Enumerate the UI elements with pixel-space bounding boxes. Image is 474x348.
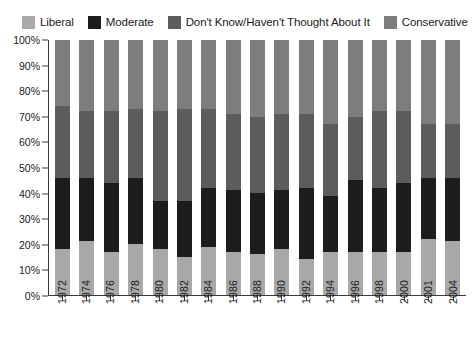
x-tick: 1972	[54, 296, 69, 348]
legend-item[interactable]: Don't Know/Haven't Thought About It	[168, 16, 370, 29]
y-tick-label: 80%	[19, 85, 40, 97]
bar-segment	[201, 188, 216, 247]
x-tick-label: 1978	[129, 280, 141, 304]
x-tick-label: 1976	[104, 280, 116, 304]
bar-segment	[226, 40, 241, 114]
x-tick-label: 1990	[275, 280, 287, 304]
bar-segment	[55, 178, 70, 249]
bar-1982[interactable]	[177, 40, 192, 295]
legend-label: Liberal	[40, 16, 74, 29]
bar-segment	[79, 111, 94, 177]
bar-segment	[421, 40, 436, 124]
bar-segment	[299, 40, 314, 114]
bar-segment	[104, 40, 119, 111]
bar-segment	[323, 40, 338, 124]
bar-segment	[104, 111, 119, 182]
bar-1978[interactable]	[128, 40, 143, 295]
bar-segment	[274, 40, 289, 114]
bar-segment	[396, 111, 411, 182]
bar-segment	[201, 109, 216, 188]
x-tick: 1980	[152, 296, 167, 348]
bar-segment	[55, 40, 70, 106]
bar-2000[interactable]	[396, 40, 411, 295]
y-tick-label: 20%	[19, 239, 40, 251]
bar-1998[interactable]	[372, 40, 387, 295]
legend-swatch-moderate	[88, 16, 101, 29]
legend-label: Conservative	[402, 16, 468, 29]
bar-segment	[177, 40, 192, 109]
x-tick: 2004	[445, 296, 460, 348]
bar-segment	[396, 183, 411, 252]
legend-item[interactable]: Conservative	[384, 16, 468, 29]
bar-1996[interactable]	[348, 40, 363, 295]
chart-root: LiberalModerateDon't Know/Haven't Though…	[0, 0, 474, 348]
y-tick-label: 0%	[25, 290, 40, 302]
x-tick: 1998	[372, 296, 387, 348]
y-axis: 100%90%80%70%60%50%40%30%20%10%0%	[0, 40, 48, 296]
x-axis: 1972197419761978198019821984198619881990…	[48, 296, 466, 348]
bar-segment	[299, 114, 314, 188]
bar-segment	[445, 178, 460, 242]
bar-segment	[372, 188, 387, 252]
x-tick: 1978	[127, 296, 142, 348]
bar-1980[interactable]	[153, 40, 168, 295]
bar-segment	[445, 124, 460, 178]
x-tick-label: 1972	[56, 280, 68, 304]
bar-segment	[177, 201, 192, 257]
bar-segment	[226, 190, 241, 251]
bar-segment	[274, 190, 289, 249]
y-tick-label: 70%	[19, 111, 40, 123]
bar-1972[interactable]	[55, 40, 70, 295]
bar-segment	[421, 178, 436, 239]
legend-label: Don't Know/Haven't Thought About It	[186, 16, 370, 29]
x-tick-label: 1992	[300, 280, 312, 304]
bar-segment	[323, 124, 338, 195]
plot-area	[48, 40, 466, 296]
x-tick-label: 2004	[447, 280, 459, 304]
bar-2001[interactable]	[421, 40, 436, 295]
bar-1984[interactable]	[201, 40, 216, 295]
y-tick-label: 90%	[19, 60, 40, 72]
x-tick-label: 1980	[153, 280, 165, 304]
bar-segment	[250, 40, 265, 117]
bar-2004[interactable]	[445, 40, 460, 295]
bar-segment	[396, 40, 411, 111]
bar-1990[interactable]	[274, 40, 289, 295]
x-tick: 1988	[250, 296, 265, 348]
x-tick-label: 1988	[251, 280, 263, 304]
x-tick-label: 1974	[80, 280, 92, 304]
x-tick: 1996	[347, 296, 362, 348]
bar-segment	[79, 178, 94, 242]
x-tick: 1974	[78, 296, 93, 348]
bar-segment	[250, 117, 265, 194]
y-tick-label: 50%	[19, 162, 40, 174]
bar-1986[interactable]	[226, 40, 241, 295]
bar-segment	[153, 40, 168, 111]
y-tick-label: 40%	[19, 188, 40, 200]
x-tick-label: 1986	[227, 280, 239, 304]
bar-segment	[104, 183, 119, 252]
bar-1976[interactable]	[104, 40, 119, 295]
x-tick-label: 1982	[178, 280, 190, 304]
bar-segment	[372, 40, 387, 111]
x-tick: 1992	[298, 296, 313, 348]
legend-label: Moderate	[106, 16, 154, 29]
bar-1994[interactable]	[323, 40, 338, 295]
bar-segment	[55, 106, 70, 177]
bar-segment	[445, 40, 460, 124]
bar-1974[interactable]	[79, 40, 94, 295]
legend-item[interactable]: Moderate	[88, 16, 154, 29]
bar-segment	[299, 188, 314, 259]
bar-segment	[153, 111, 168, 200]
bar-segment	[348, 40, 363, 117]
legend-item[interactable]: Liberal	[22, 16, 74, 29]
bar-1992[interactable]	[299, 40, 314, 295]
bar-segment	[348, 117, 363, 181]
bar-1988[interactable]	[250, 40, 265, 295]
x-tick: 2001	[421, 296, 436, 348]
bar-segment	[201, 40, 216, 109]
x-tick: 1994	[323, 296, 338, 348]
x-tick-label: 1996	[349, 280, 361, 304]
x-tick: 1984	[201, 296, 216, 348]
bar-segment	[348, 180, 363, 251]
